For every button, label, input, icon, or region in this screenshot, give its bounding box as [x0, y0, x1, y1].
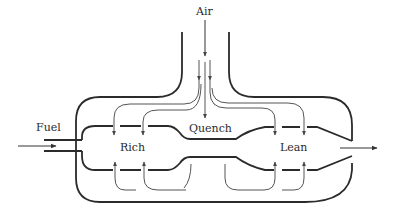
casing-left-wall: [76, 32, 352, 202]
air-label: Air: [196, 5, 213, 18]
rich-zone-label: Rich: [120, 141, 145, 154]
casing-right-wall: [229, 32, 352, 141]
combustor-diagram: [0, 0, 396, 216]
flow-rich-bottom-2: [144, 162, 191, 190]
fuel-label: Fuel: [36, 121, 61, 134]
lean-zone-label: Lean: [280, 141, 307, 154]
quench-zone-label: Quench: [189, 122, 232, 135]
flow-rich-bottom-1: [115, 162, 136, 190]
flow-lean-bottom-2: [282, 162, 304, 190]
flow-lean-bottom-1: [225, 162, 275, 190]
